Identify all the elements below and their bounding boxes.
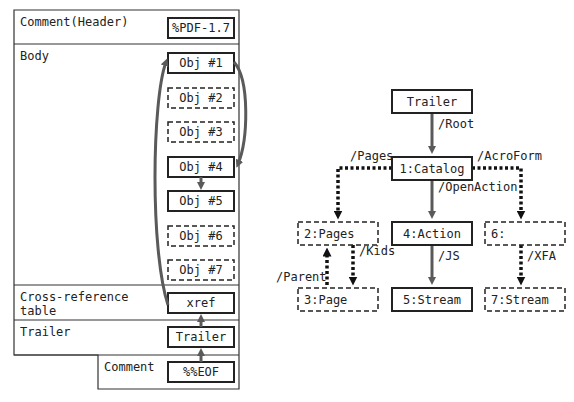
box-xref: xref bbox=[168, 293, 234, 313]
section-label-xref-line1: Cross-reference bbox=[20, 290, 128, 304]
box-obj-1: Obj #1 bbox=[168, 53, 234, 73]
node-trailer: Trailer bbox=[392, 90, 472, 113]
node-stream-7: 7:Stream bbox=[485, 288, 565, 311]
edge-pages bbox=[338, 168, 392, 215]
box-eof: %%EOF bbox=[168, 362, 234, 382]
svg-text:Obj #3: Obj #3 bbox=[179, 125, 222, 139]
edge-label-kids: /Kids bbox=[359, 244, 395, 258]
pdf-file-structure-panel: Comment(Header) Body Cross-reference tab… bbox=[14, 10, 246, 389]
pdf-object-graph-panel: /Root /OpenAction /JS /Pages /AcroForm /… bbox=[276, 90, 565, 311]
edge-label-parent: /Parent bbox=[276, 270, 327, 284]
box-header: %PDF-1.7 bbox=[168, 18, 234, 38]
svg-text:Obj #1: Obj #1 bbox=[179, 56, 222, 70]
svg-text:Obj #4: Obj #4 bbox=[179, 160, 222, 174]
edge-label-root: /Root bbox=[438, 117, 474, 131]
box-obj-3: Obj #3 bbox=[168, 122, 234, 142]
section-label-comment: Comment bbox=[104, 360, 155, 374]
node-page: 3:Page bbox=[298, 288, 378, 311]
section-label-body: Body bbox=[20, 49, 49, 63]
box-obj-2: Obj #2 bbox=[168, 88, 234, 108]
svg-text:3:Page: 3:Page bbox=[304, 293, 347, 307]
box-obj-5: Obj #5 bbox=[168, 191, 234, 211]
svg-text:2:Pages: 2:Pages bbox=[304, 227, 355, 241]
edge-label-js: /JS bbox=[438, 249, 460, 263]
box-trailer: Trailer bbox=[168, 327, 234, 347]
section-label-header: Comment(Header) bbox=[20, 15, 128, 29]
edge-label-pages: /Pages bbox=[350, 149, 393, 163]
svg-text:Trailer: Trailer bbox=[176, 330, 227, 344]
arrow-obj1-to-obj4 bbox=[234, 62, 246, 164]
svg-text:Trailer: Trailer bbox=[407, 95, 458, 109]
svg-text:%PDF-1.7: %PDF-1.7 bbox=[172, 21, 230, 35]
section-label-xref-line2: table bbox=[20, 304, 56, 318]
svg-text:Obj #7: Obj #7 bbox=[179, 263, 222, 277]
svg-text:1:Catalog: 1:Catalog bbox=[399, 162, 464, 176]
edge-label-xfa: /XFA bbox=[527, 249, 557, 263]
svg-text:Obj #6: Obj #6 bbox=[179, 229, 222, 243]
svg-text:xref: xref bbox=[187, 296, 216, 310]
svg-text:Obj #2: Obj #2 bbox=[179, 91, 222, 105]
edge-label-openaction: /OpenAction bbox=[438, 180, 517, 194]
node-acroform: 6: bbox=[485, 222, 565, 245]
box-obj-7: Obj #7 bbox=[168, 260, 234, 280]
node-action: 4:Action bbox=[392, 222, 472, 245]
edge-label-acroform: /AcroForm bbox=[477, 149, 542, 163]
svg-text:4:Action: 4:Action bbox=[403, 227, 461, 241]
arrow-xref-to-obj1 bbox=[155, 62, 168, 305]
section-label-trailer: Trailer bbox=[20, 325, 71, 339]
svg-text:6:: 6: bbox=[491, 227, 505, 241]
box-obj-4: Obj #4 bbox=[168, 157, 234, 177]
svg-text:%%EOF: %%EOF bbox=[183, 365, 219, 379]
box-obj-6: Obj #6 bbox=[168, 226, 234, 246]
node-stream-5: 5:Stream bbox=[392, 288, 472, 311]
node-pages: 2:Pages bbox=[298, 222, 378, 245]
svg-text:5:Stream: 5:Stream bbox=[403, 293, 461, 307]
node-catalog: 1:Catalog bbox=[392, 157, 472, 180]
svg-text:7:Stream: 7:Stream bbox=[491, 293, 549, 307]
svg-text:Obj #5: Obj #5 bbox=[179, 194, 222, 208]
